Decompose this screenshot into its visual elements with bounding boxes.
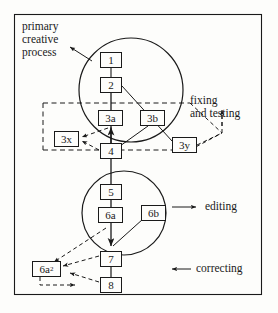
node-box-3b[interactable]: 3b [140,110,165,126]
node-box-3y[interactable]: 3y [172,137,197,153]
pointer-primary-creative-process [70,47,92,61]
node-box-8[interactable]: 8 [100,277,122,293]
node-box-4[interactable]: 4 [100,143,122,159]
edge-6a2-to-8-dashed [40,277,75,285]
edge-3a-to-3x-dashed [82,128,108,137]
caption-fixing-and-testing: fixing and testing [190,94,240,120]
node-box-3x[interactable]: 3x [54,131,79,147]
caption-primary-creative-process: primary creative process [22,20,58,59]
edge-6b-to-7-junction [113,219,143,246]
node-box-1[interactable]: 1 [100,52,122,68]
edge-8-to-6a2-dashed [70,273,99,282]
caption-editing: editing [205,200,237,213]
diagram-canvas: primary creative process fixing and test… [0,0,278,313]
node-box-6a-squared[interactable]: 6a2 [32,261,61,277]
node-box-2[interactable]: 2 [100,77,122,93]
node-box-6b[interactable]: 6b [141,205,166,221]
edge-7-to-6a2-dashed [63,256,99,266]
node-box-3a[interactable]: 3a [98,110,123,126]
edge-6a-to-6a2-dashed [54,228,106,262]
node-box-7[interactable]: 7 [100,251,122,267]
node-box-6a-squared-exponent: 2 [50,266,54,273]
edge-3b-to-4-junction [120,126,148,146]
upper-circle-primary-creative-process [79,38,183,142]
node-box-6a[interactable]: 6a [98,207,123,223]
caption-correcting: correcting [196,262,243,275]
node-box-5[interactable]: 5 [100,184,122,200]
edge-4-to-3x-dashed [82,141,99,150]
node-box-6a-squared-base: 6a [40,264,50,275]
